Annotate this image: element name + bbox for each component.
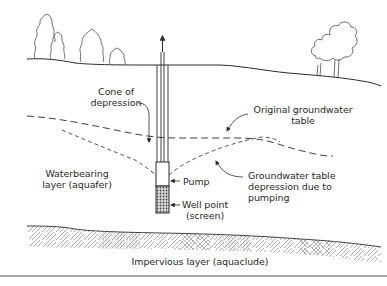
wellpoint-label-line1: Well point — [179, 199, 231, 210]
cone-of-depression-label: Cone of depression — [86, 86, 146, 108]
groundwater-depression-label: Groundwater table depression due to pump… — [248, 170, 335, 203]
cone-label-line2: depression — [86, 97, 146, 108]
original-label-line2: table — [248, 115, 358, 126]
diagram-canvas — [0, 0, 387, 286]
aquifer-label-line2: layer (aquafer) — [40, 179, 114, 190]
groundwater-well-diagram: Cone of depression Original groundwater … — [0, 0, 387, 286]
original-groundwater-table-label: Original groundwater table — [248, 104, 358, 126]
aquifer-label: Waterbearing layer (aquafer) — [40, 168, 114, 190]
depression-label-line3: pumping — [248, 192, 335, 203]
wellpoint-label-line2: (screen) — [179, 210, 231, 221]
original-label-line1: Original groundwater — [248, 104, 358, 115]
pump-label: Pump — [183, 176, 209, 187]
leader-lines — [138, 103, 248, 205]
depression-label-line1: Groundwater table — [248, 170, 335, 181]
ground-surface — [27, 59, 381, 86]
depression-label-line2: depression due to — [248, 181, 335, 192]
pump — [156, 162, 169, 186]
deciduous-tree — [311, 22, 357, 78]
cone-label-line1: Cone of — [86, 86, 146, 97]
impervious-layer-label: Impervious layer (aquaclude) — [120, 256, 280, 267]
conifer-trees — [34, 14, 125, 64]
well-casing — [157, 52, 168, 162]
well-screen — [156, 186, 169, 213]
well-point-label: Well point (screen) — [179, 199, 231, 221]
aquifer-label-line1: Waterbearing — [40, 168, 114, 179]
